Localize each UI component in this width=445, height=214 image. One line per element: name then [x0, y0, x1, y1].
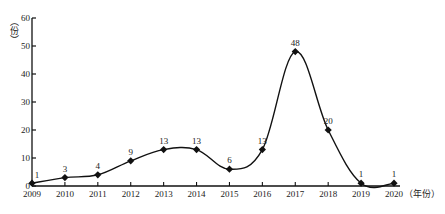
line-chart: 0102030405060 20092010201120122013201420…	[0, 0, 445, 214]
diamond-marker-icon	[325, 126, 332, 133]
x-tick-label: 2010	[56, 189, 75, 199]
data-point-label: 13	[159, 136, 169, 146]
data-point-label: 6	[227, 155, 232, 165]
data-line	[32, 51, 394, 187]
y-axis: 0102030405060	[21, 13, 36, 191]
diamond-marker-icon	[226, 166, 233, 173]
data-point-label: 20	[324, 116, 334, 126]
data-point-label: 48	[291, 38, 301, 48]
x-tick-label: 2012	[122, 189, 140, 199]
x-tick-label: 2013	[155, 189, 174, 199]
data-point-label: 1	[35, 170, 40, 180]
y-axis-unit-label: （份）	[9, 17, 19, 44]
diamond-marker-icon	[259, 146, 266, 153]
data-point-label: 9	[128, 147, 133, 157]
data-point-label: 1	[359, 169, 364, 179]
data-markers	[28, 48, 397, 187]
data-point-label: 13	[192, 136, 202, 146]
data-point-label: 1	[392, 169, 397, 179]
y-tick-label: 50	[21, 41, 31, 51]
diamond-marker-icon	[94, 171, 101, 178]
y-tick-label: 10	[21, 153, 31, 163]
diamond-marker-icon	[127, 157, 134, 164]
data-point-label: 13	[258, 136, 268, 146]
x-tick-label: 2014	[188, 189, 207, 199]
data-labels: 13491313613482011	[35, 38, 397, 181]
x-tick-label: 2009	[23, 189, 42, 199]
data-point-label: 4	[96, 161, 101, 171]
x-tick-label: 2020	[385, 189, 404, 199]
diamond-marker-icon	[160, 146, 167, 153]
y-tick-label: 40	[21, 69, 31, 79]
x-tick-label: 2019	[352, 189, 371, 199]
y-tick-label: 20	[21, 125, 31, 135]
y-tick-label: 30	[21, 97, 31, 107]
x-tick-label: 2011	[89, 189, 107, 199]
x-tick-label: 2015	[220, 189, 239, 199]
diamond-marker-icon	[193, 146, 200, 153]
x-tick-label: 2018	[319, 189, 338, 199]
y-tick-label: 60	[21, 13, 31, 23]
x-axis: 2009201020112012201320142015201620172018…	[23, 182, 404, 199]
data-point-label: 3	[63, 164, 68, 174]
x-tick-label: 2016	[253, 189, 272, 199]
x-tick-label: 2017	[286, 189, 305, 199]
x-axis-unit-label: （年份）	[404, 188, 440, 199]
diamond-marker-icon	[61, 174, 68, 181]
